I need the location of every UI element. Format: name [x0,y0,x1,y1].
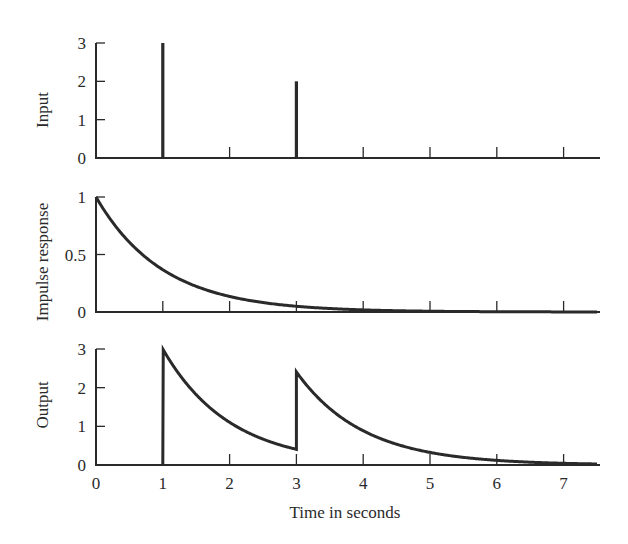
y-tick-label: 2 [78,379,87,398]
y-tick-label: 3 [78,340,87,359]
y-tick-label: 0.5 [65,246,86,265]
output-panel: 0123 [78,340,601,475]
y-tick-label: 1 [78,417,87,436]
x-tick-label: 4 [359,474,368,493]
impulse-response-panel: 00.51 [65,188,600,322]
x-tick-label: 3 [292,474,301,493]
impulse-response-ylabel: Impulse response [33,203,52,322]
x-tick-label: 2 [225,474,234,493]
impulse-response-curve [96,197,597,312]
output-ylabel: Output [33,381,52,429]
x-tick-label: 5 [426,474,435,493]
x-tick-labels: 01234567 [92,474,569,493]
x-tick-label: 7 [559,474,568,493]
y-tick-label: 0 [78,149,87,168]
input-ylabel: Input [33,92,52,128]
y-tick-label: 0 [78,456,87,475]
x-tick-label: 0 [92,474,101,493]
y-tick-label: 1 [78,111,87,130]
figure: 0123 00.51 0123 Input Impulse response O… [0,0,628,544]
input-panel: 0123 [78,34,601,168]
y-tick-label: 0 [78,303,87,322]
y-tick-label: 1 [78,188,87,207]
y-tick-label: 3 [78,34,87,53]
x-tick-label: 6 [493,474,502,493]
y-tick-label: 2 [78,72,87,91]
x-axis-label: Time in seconds [290,503,401,522]
x-tick-label: 1 [159,474,168,493]
output-curve [163,350,597,465]
